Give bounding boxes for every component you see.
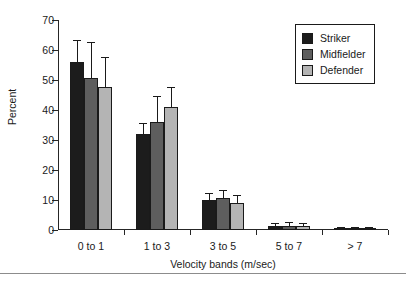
error-bar-cap	[299, 223, 307, 224]
legend: StrikerMidfielderDefender	[295, 24, 375, 84]
error-bar-cap	[87, 42, 95, 43]
error-bar-line	[369, 228, 370, 229]
y-tick-label: 20	[42, 165, 54, 176]
error-bar-line	[303, 224, 304, 227]
x-tick-label: 0 to 1	[78, 240, 104, 252]
error-bar-line	[275, 224, 276, 226]
x-axis-title: Velocity bands (m/sec)	[58, 258, 388, 270]
legend-item-label: Midfielder	[320, 49, 366, 60]
x-tick-label: 3 to 5	[210, 240, 236, 252]
bar	[230, 203, 244, 230]
error-bar-cap	[285, 222, 293, 223]
bar	[202, 200, 216, 230]
y-tick-label: 0	[48, 225, 54, 236]
bar	[136, 134, 150, 230]
error-bar-line	[355, 228, 356, 229]
footer-divider	[0, 273, 406, 274]
x-tick-mark	[256, 230, 257, 235]
error-bar-cap	[73, 40, 81, 41]
error-bar-cap	[205, 193, 213, 194]
error-bar-line	[143, 124, 144, 135]
error-bar-line	[77, 41, 78, 62]
x-tick-label: 5 to 7	[276, 240, 302, 252]
bar	[164, 107, 178, 230]
error-bar-line	[289, 223, 290, 226]
legend-item-label: Striker	[320, 33, 350, 44]
error-bar-line	[157, 97, 158, 123]
y-tick-label: 60	[42, 45, 54, 56]
x-tick-mark	[388, 230, 389, 235]
legend-swatch-icon	[302, 65, 313, 76]
y-tick-label: 10	[42, 195, 54, 206]
x-tick-mark	[322, 230, 323, 235]
bar	[70, 62, 84, 230]
y-axis-title: Percent	[6, 89, 18, 125]
bar	[150, 122, 164, 230]
x-tick-label: > 7	[348, 240, 363, 252]
legend-item: Midfielder	[302, 46, 366, 62]
bar-chart-figure: Percent 010203040506070 0 to 11 to 33 to…	[0, 0, 406, 282]
y-tick-label: 40	[42, 105, 54, 116]
x-tick-mark	[124, 230, 125, 235]
error-bar-cap	[337, 227, 345, 228]
y-tick-label: 30	[42, 135, 54, 146]
bar	[268, 226, 282, 230]
error-bar-line	[341, 228, 342, 229]
y-tick-label: 50	[42, 75, 54, 86]
legend-item: Defender	[302, 62, 366, 78]
error-bar-cap	[219, 190, 227, 191]
legend-swatch-icon	[302, 49, 313, 60]
bar	[84, 78, 98, 230]
error-bar-line	[223, 191, 224, 198]
y-tick-label: 70	[42, 15, 54, 26]
error-bar-cap	[153, 96, 161, 97]
error-bar-cap	[271, 223, 279, 224]
x-tick-mark	[190, 230, 191, 235]
legend-item: Striker	[302, 30, 366, 46]
error-bar-line	[171, 88, 172, 108]
error-bar-cap	[139, 123, 147, 124]
bar	[296, 226, 310, 230]
error-bar-cap	[167, 87, 175, 88]
error-bar-line	[105, 58, 106, 87]
error-bar-cap	[365, 227, 373, 228]
y-axis-line	[58, 20, 59, 230]
bar	[98, 87, 112, 230]
error-bar-line	[209, 194, 210, 200]
error-bar-cap	[351, 227, 359, 228]
bar	[282, 226, 296, 231]
bar	[216, 198, 230, 230]
error-bar-cap	[233, 195, 241, 196]
legend-item-label: Defender	[320, 65, 363, 76]
legend-swatch-icon	[302, 33, 313, 44]
error-bar-cap	[101, 57, 109, 58]
error-bar-line	[237, 196, 238, 204]
x-tick-label: 1 to 3	[144, 240, 170, 252]
error-bar-line	[91, 43, 92, 78]
